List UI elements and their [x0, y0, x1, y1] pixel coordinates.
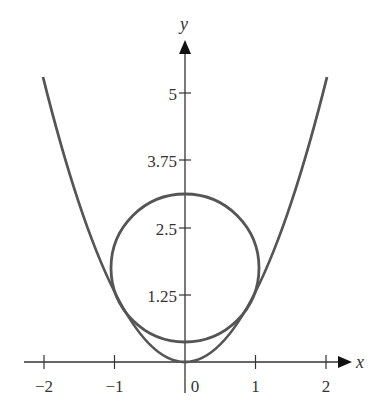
y-tick-label: 3.75: [147, 152, 177, 171]
x-axis: −2 −1 0 1 2 x: [24, 352, 364, 396]
x-axis-label: x: [355, 352, 364, 372]
x-tick-label: 1: [251, 377, 260, 396]
x-tick-label: 0: [191, 377, 200, 396]
y-tick-label: 2.5: [156, 220, 177, 239]
y-tick-label: 5: [169, 85, 178, 104]
x-axis-arrow-icon: [338, 356, 352, 368]
x-tick-label: −2: [35, 377, 53, 396]
x-tick-label: −1: [105, 377, 123, 396]
x-tick-label: 2: [322, 377, 331, 396]
y-tick-label: 1.25: [147, 287, 177, 306]
chart: −2 −1 0 1 2 x 5 3.75 2.5 1.25 y: [0, 0, 380, 414]
y-axis-arrow-icon: [179, 40, 191, 54]
y-axis-label: y: [178, 14, 188, 34]
